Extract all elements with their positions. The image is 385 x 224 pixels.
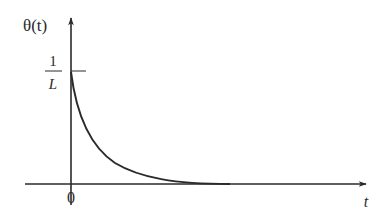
x-axis-label: t — [364, 193, 369, 210]
y-axis-label: θ(t) — [23, 16, 47, 35]
tick-denominator: L — [48, 76, 57, 92]
tick-numerator: 1 — [49, 53, 57, 69]
origin-label: 0 — [67, 189, 75, 206]
decay-plot: θ(t) 1 L 0 t — [0, 0, 385, 224]
decay-curve — [71, 72, 230, 184]
